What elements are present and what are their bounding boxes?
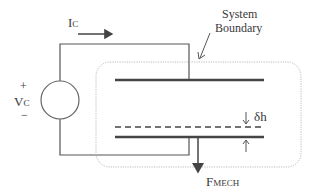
boundary-label-line2: Boundary <box>215 22 262 34</box>
boundary-label-line1: System <box>222 8 257 20</box>
force-label: FMECH <box>206 175 239 188</box>
minus-sign: − <box>21 109 28 121</box>
voltage-source-icon <box>41 81 79 119</box>
plus-sign: + <box>20 80 27 92</box>
actuator-diagram <box>0 0 313 193</box>
boundary-pointer-icon <box>200 33 210 58</box>
gap-label: δh <box>254 110 267 123</box>
current-label: IC <box>68 16 78 29</box>
voltage-label: VC <box>14 95 29 108</box>
